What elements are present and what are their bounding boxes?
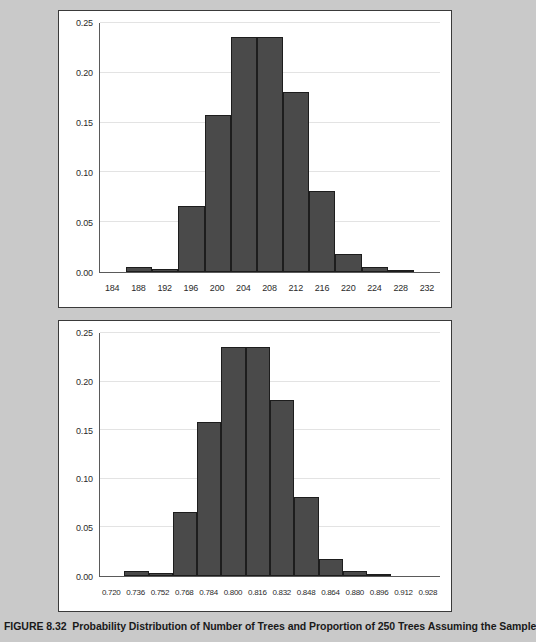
histogram-bar [343, 571, 367, 576]
figure-caption-text: Probability Distribution of Number of Tr… [72, 620, 536, 632]
y-tick-label: 0.05 [76, 523, 93, 533]
figure-number: FIGURE 8.32 [4, 620, 66, 632]
x-tick-label: 208 [256, 283, 282, 293]
y-tick-label: 0.20 [76, 68, 93, 78]
x-tick-label: 0.912 [391, 588, 415, 597]
histogram-bars-1 [100, 23, 440, 272]
y-tick-label: 0.05 [76, 218, 93, 228]
figure-caption: FIGURE 8.32 Probability Distribution of … [4, 620, 509, 632]
bar-slot [270, 333, 294, 576]
bar-slot [205, 23, 231, 272]
bar-slot [414, 23, 440, 272]
x-axis-labels-1: 184188192196200204208212216220224228232 [99, 283, 440, 293]
histogram-bar [388, 270, 414, 272]
histogram-bar [283, 92, 309, 272]
bar-slot [149, 333, 173, 576]
histogram-bar [309, 191, 335, 272]
x-tick-label: 0.752 [148, 588, 172, 597]
x-tick-label: 196 [178, 283, 204, 293]
bar-slot [221, 333, 245, 576]
histogram-panel-number-of-trees: 0.000.050.100.150.200.25 184188192196200… [58, 10, 452, 308]
histogram-bar [319, 559, 343, 576]
bar-slot [343, 333, 367, 576]
y-tick-label: 0.15 [76, 118, 93, 128]
histogram-bar [205, 115, 231, 272]
bar-slot [126, 23, 152, 272]
x-tick-label: 0.768 [172, 588, 196, 597]
x-tick-label: 220 [335, 283, 361, 293]
histogram-bars-2 [100, 333, 440, 576]
x-tick-label: 0.848 [294, 588, 318, 597]
y-tick-label: 0.25 [76, 328, 93, 338]
bar-slot [231, 23, 257, 272]
y-tick-label: 0.00 [76, 268, 93, 278]
x-tick-label: 0.864 [318, 588, 342, 597]
y-tick-label: 0.00 [76, 572, 93, 582]
plot-axes-1 [99, 23, 440, 273]
histogram-bar [149, 573, 173, 576]
x-tick-label: 204 [230, 283, 256, 293]
histogram-bar [221, 347, 245, 576]
x-tick-label: 0.720 [99, 588, 123, 597]
histogram-bar [197, 422, 221, 576]
y-axis-labels-2: 0.000.050.100.150.200.25 [63, 321, 93, 611]
histogram-bar [362, 267, 388, 272]
x-tick-label: 0.800 [221, 588, 245, 597]
x-tick-label: 192 [151, 283, 177, 293]
y-tick-label: 0.10 [76, 474, 93, 484]
x-tick-label: 0.896 [367, 588, 391, 597]
x-tick-label: 0.736 [123, 588, 147, 597]
bar-slot [367, 333, 391, 576]
x-tick-label: 216 [309, 283, 335, 293]
histogram-bar [231, 37, 257, 272]
bar-slot [124, 333, 148, 576]
bar-slot [100, 23, 126, 272]
bar-slot [100, 333, 124, 576]
histogram-bar [257, 37, 283, 272]
x-tick-label: 0.832 [270, 588, 294, 597]
plot-inner-2: 0.000.050.100.150.200.25 0.7200.7360.752… [59, 321, 451, 611]
bar-slot [388, 23, 414, 272]
x-tick-label: 224 [361, 283, 387, 293]
histogram-bar [124, 571, 148, 576]
x-tick-label: 0.928 [416, 588, 440, 597]
x-tick-label: 212 [283, 283, 309, 293]
x-tick-label: 0.816 [245, 588, 269, 597]
bar-slot [416, 333, 440, 576]
x-tick-label: 228 [388, 283, 414, 293]
x-tick-label: 0.880 [343, 588, 367, 597]
x-tick-label: 200 [204, 283, 230, 293]
bar-slot [197, 333, 221, 576]
y-tick-label: 0.25 [76, 18, 93, 28]
bar-slot [283, 23, 309, 272]
y-tick-label: 0.10 [76, 168, 93, 178]
y-tick-label: 0.15 [76, 426, 93, 436]
bar-slot [362, 23, 388, 272]
x-tick-label: 184 [99, 283, 125, 293]
bar-slot [257, 23, 283, 272]
histogram-bar [178, 206, 204, 272]
x-tick-label: 0.784 [196, 588, 220, 597]
y-axis-labels-1: 0.000.050.100.150.200.25 [63, 11, 93, 307]
x-tick-label: 232 [414, 283, 440, 293]
histogram-bar [173, 512, 197, 576]
histogram-bar [152, 269, 178, 272]
bar-slot [335, 23, 361, 272]
bar-slot [391, 333, 415, 576]
histogram-bar [367, 574, 391, 576]
plot-axes-2 [99, 333, 440, 577]
plot-inner-1: 0.000.050.100.150.200.25 184188192196200… [59, 11, 451, 307]
histogram-bar [294, 497, 318, 576]
bar-slot [309, 23, 335, 272]
histogram-bar [335, 254, 361, 272]
histogram-bar [270, 400, 294, 576]
y-tick-label: 0.20 [76, 377, 93, 387]
bar-slot [173, 333, 197, 576]
histogram-panel-proportion-of-trees: 0.000.050.100.150.200.25 0.7200.7360.752… [58, 320, 452, 612]
x-axis-labels-2: 0.7200.7360.7520.7680.7840.8000.8160.832… [99, 588, 440, 597]
bar-slot [178, 23, 204, 272]
histogram-bar [246, 347, 270, 576]
bar-slot [152, 23, 178, 272]
bar-slot [319, 333, 343, 576]
